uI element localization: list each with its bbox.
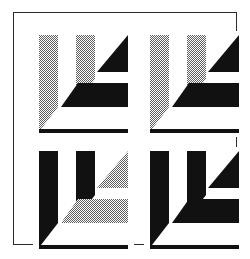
motif-bottom-right [144,147,245,253]
upper-right-triangle [208,35,239,72]
left-vertical-bar [39,151,58,245]
baseline-rule [39,245,128,249]
panel-bottom-left [33,147,134,253]
panel-bottom-right [144,147,245,253]
figure-root [0,0,250,259]
panel-top-left [33,31,134,137]
figure-frame [13,12,237,245]
horizontal-band [172,83,239,107]
panel-top-right [144,31,245,137]
baseline-rule [39,129,128,133]
left-vertical-bar [39,35,58,129]
upper-right-triangle [97,151,128,188]
upper-right-triangle [97,35,128,72]
motif-top-left [33,31,134,137]
horizontal-band [61,199,128,223]
baseline-rule [150,129,239,133]
left-vertical-bar [150,35,169,129]
motif-bottom-left [33,147,134,253]
upper-right-triangle [208,151,239,188]
baseline-rule [150,245,239,249]
horizontal-band [61,83,128,107]
panel-grid [33,31,245,253]
left-vertical-bar [150,151,169,245]
horizontal-band [172,199,239,223]
motif-top-right [144,31,245,137]
